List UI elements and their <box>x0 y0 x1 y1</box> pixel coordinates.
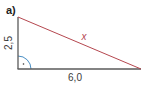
hypotenuse <box>18 17 141 69</box>
part-label: a) <box>6 4 16 16</box>
vertical-leg-label: 2,5 <box>3 36 14 50</box>
right-angle-marker-icon <box>18 56 31 69</box>
base-label: 6,0 <box>68 72 82 83</box>
right-angle-dot-icon <box>23 63 25 65</box>
hypotenuse-label: x <box>81 31 88 42</box>
right-triangle-figure: a) 2,5 6,0 x <box>0 0 142 85</box>
